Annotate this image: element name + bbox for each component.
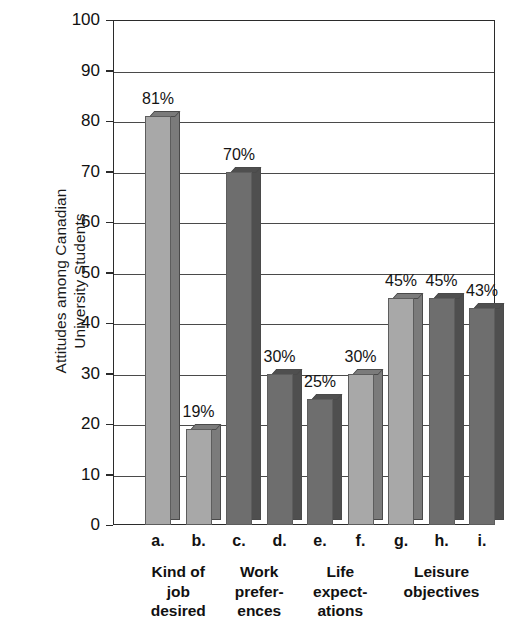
- x-label-f: f.: [341, 532, 381, 550]
- y-tick-70: [106, 171, 113, 173]
- x-label-h: h.: [422, 532, 462, 550]
- y-tick-label-50: 50: [52, 264, 100, 281]
- value-label-f: 30%: [337, 349, 385, 365]
- y-tick-label-0: 0: [52, 516, 100, 533]
- y-tick-label-10: 10: [52, 466, 100, 483]
- y-tick-label-80: 80: [52, 112, 100, 129]
- x-label-g: g.: [381, 532, 421, 550]
- gridline-40: [114, 324, 494, 325]
- value-label-b: 19%: [175, 404, 223, 420]
- y-tick-50: [106, 272, 113, 274]
- y-tick-0: [106, 525, 113, 527]
- y-tick-label-100: 100: [52, 11, 100, 28]
- value-label-c: 70%: [215, 147, 263, 163]
- gridline-20: [114, 425, 494, 426]
- gridline-90: [114, 72, 494, 73]
- y-tick-10: [106, 474, 113, 476]
- value-label-d: 30%: [256, 349, 304, 365]
- gridline-70: [114, 173, 494, 174]
- bar-chart: Attitudes among Canadian University Stud…: [0, 0, 516, 629]
- x-group-label-line: Leisure: [382, 562, 502, 582]
- y-tick-90: [106, 70, 113, 72]
- gridline-10: [114, 476, 494, 477]
- gridline-80: [114, 122, 494, 123]
- x-label-a: a.: [138, 532, 178, 550]
- y-tick-label-90: 90: [52, 62, 100, 79]
- gridline-60: [114, 223, 494, 224]
- value-label-e: 25%: [296, 374, 344, 390]
- value-label-i: 43%: [458, 283, 506, 299]
- x-label-i: i.: [462, 532, 502, 550]
- y-tick-100: [106, 20, 113, 22]
- x-group-label-line: ations: [280, 601, 400, 621]
- y-tick-label-70: 70: [52, 163, 100, 180]
- x-label-e: e.: [300, 532, 340, 550]
- y-tick-60: [106, 222, 113, 224]
- y-tick-30: [106, 373, 113, 375]
- x-label-d: d.: [260, 532, 300, 550]
- y-tick-label-30: 30: [52, 365, 100, 382]
- y-tick-40: [106, 323, 113, 325]
- x-group-label-line: objectives: [382, 582, 502, 602]
- x-group-label-3: Leisureobjectives: [382, 562, 502, 601]
- y-tick-label-20: 20: [52, 415, 100, 432]
- y-tick-80: [106, 121, 113, 123]
- bar-side-face: [495, 303, 504, 520]
- value-label-a: 81%: [134, 91, 182, 107]
- x-label-b: b.: [179, 532, 219, 550]
- y-tick-label-60: 60: [52, 213, 100, 230]
- x-label-c: c.: [219, 532, 259, 550]
- y-tick-label-40: 40: [52, 314, 100, 331]
- y-tick-20: [106, 424, 113, 426]
